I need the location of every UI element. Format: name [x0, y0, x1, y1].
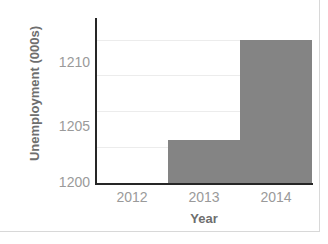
y-axis-line [95, 18, 97, 184]
x-axis-line [95, 183, 313, 185]
x-axis-title: Year [96, 211, 312, 226]
bar-chart-figure: Unemployment (000s) 1210 1205 1200 2012 … [0, 0, 328, 244]
x-tick-label-2014: 2014 [240, 189, 312, 205]
y-axis-title: Unemployment (000s) [27, 14, 42, 174]
y-tick-label-1210: 1210 [0, 54, 90, 70]
bar-2014 [240, 40, 312, 183]
y-tick-label-1200: 1200 [0, 174, 90, 190]
x-tick-label-2013: 2013 [168, 189, 240, 205]
y-tick-label-1205: 1205 [0, 118, 90, 134]
plot-area [96, 18, 312, 183]
x-tick-label-2012: 2012 [96, 189, 168, 205]
bar-2013 [168, 140, 240, 183]
